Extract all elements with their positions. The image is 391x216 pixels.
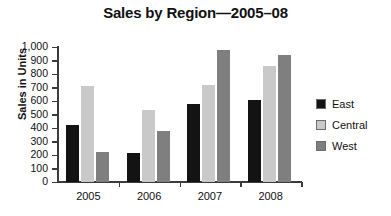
y-tick-label: 800	[30, 67, 48, 79]
bar	[263, 66, 276, 182]
x-tick-mark	[240, 182, 242, 187]
bar	[217, 50, 230, 182]
bar	[142, 110, 155, 182]
y-tick-label: 200	[30, 148, 48, 160]
bar	[96, 152, 109, 182]
bar-chart: Sales by Region—2005–08 Sales in Units 0…	[0, 0, 391, 216]
y-tick-label: 0	[42, 175, 48, 187]
bar	[81, 86, 94, 182]
x-tick-label: 2007	[180, 190, 241, 202]
x-tick-mark	[301, 182, 303, 187]
legend-item-west[interactable]: West	[316, 137, 391, 154]
y-tick-label: 500	[30, 108, 48, 120]
chart-title: Sales by Region—2005–08	[0, 4, 391, 21]
legend-label: Central	[332, 119, 367, 131]
legend-label: East	[332, 98, 354, 110]
legend-item-central[interactable]: Central	[316, 116, 391, 133]
y-tick-label: 300	[30, 135, 48, 147]
bar	[202, 85, 215, 182]
legend-item-east[interactable]: East	[316, 95, 391, 112]
bar	[127, 153, 140, 182]
y-tick-label: 900	[30, 54, 48, 66]
y-tick-label: 1,000	[22, 40, 48, 52]
bar-group	[240, 47, 301, 182]
x-tick-mark	[180, 182, 182, 187]
legend-label: West	[332, 140, 357, 152]
x-tick-label: 2008	[240, 190, 301, 202]
y-tick-label: 600	[30, 94, 48, 106]
x-tick-label: 2005	[58, 190, 119, 202]
bar	[278, 55, 291, 182]
bar-group	[58, 47, 119, 182]
y-tick-label: 100	[30, 162, 48, 174]
bar	[157, 131, 170, 182]
plot-area	[58, 47, 301, 182]
bar	[66, 125, 79, 182]
x-tick-mark	[119, 182, 121, 187]
legend-swatch-icon	[316, 99, 326, 109]
bar-group	[119, 47, 180, 182]
bar-group	[180, 47, 241, 182]
bar	[187, 104, 200, 182]
y-tick-label: 700	[30, 81, 48, 93]
legend-swatch-icon	[316, 141, 326, 151]
chart-legend: EastCentralWest	[316, 95, 391, 158]
y-tick-label: 400	[30, 121, 48, 133]
x-tick-label: 2006	[119, 190, 180, 202]
legend-swatch-icon	[316, 120, 326, 130]
bar	[248, 100, 261, 182]
